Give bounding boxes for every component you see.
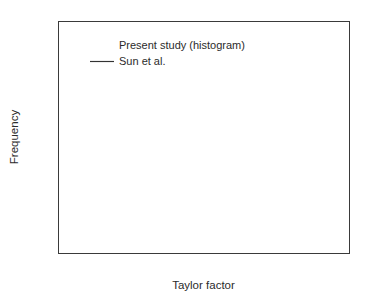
x-axis-title: Taylor factor bbox=[172, 279, 235, 291]
y-axis-title: Frequency bbox=[8, 110, 20, 165]
legend-label-present-study: Present study (histogram) bbox=[119, 39, 245, 51]
legend-label-sun-et-al: Sun et al. bbox=[119, 55, 165, 67]
taylor-factor-frequency-chart: Taylor factor Frequency Present study (h… bbox=[0, 0, 375, 303]
chart-figure: Taylor factor Frequency Present study (h… bbox=[0, 0, 375, 303]
